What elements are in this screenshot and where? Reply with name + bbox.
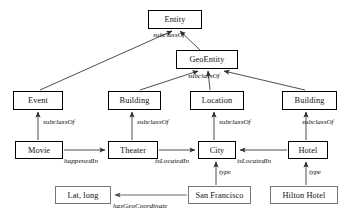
node-building-left-label: Building	[120, 96, 150, 105]
node-sanfrancisco-label: San Francisco	[195, 191, 243, 200]
edge-label-movie-event: subclassOf	[43, 118, 75, 126]
node-sanfrancisco[interactable]: San Francisco	[188, 186, 251, 204]
node-entity[interactable]: Entity	[148, 10, 202, 29]
edge-building-right-geoentity	[224, 71, 305, 90]
edge-label-city-location: subclassOf	[219, 118, 251, 126]
edge-label-sanfrancisco-city: type	[219, 168, 231, 176]
node-location[interactable]: Location	[190, 91, 244, 110]
node-hiltonhotel[interactable]: Hilton Hotel	[270, 186, 338, 204]
edge-label-sanfrancisco-latlong: hasGeoCoordinate	[113, 202, 168, 210]
node-building-left[interactable]: Building	[108, 91, 161, 110]
node-movie-label: Movie	[28, 146, 50, 155]
edge-label-hotel-building: subclassOf	[302, 118, 334, 126]
node-latlong[interactable]: Lat, long	[55, 186, 111, 204]
node-event-label: Event	[28, 96, 48, 105]
edge-label-location-geoentity: subclassOf	[188, 72, 220, 80]
node-city[interactable]: City	[198, 141, 236, 159]
node-geoentity-label: GeoEntity	[189, 55, 224, 64]
node-city-label: City	[210, 146, 225, 155]
diagram-canvas: Entity GeoEntity Event Building Location…	[0, 0, 359, 215]
edge-label-theater-building: subclassOf	[137, 118, 169, 126]
node-hiltonhotel-label: Hilton Hotel	[283, 191, 326, 200]
node-entity-label: Entity	[165, 15, 186, 24]
edge-label-geoentity-entity: subclassOf	[153, 31, 185, 39]
edge-label-movie-theater: happenedIn	[64, 157, 98, 165]
edge-label-hiltonhotel-hotel: type	[309, 168, 321, 176]
node-location-label: Location	[202, 96, 232, 105]
node-theater[interactable]: Theater	[108, 141, 158, 159]
edge-event-entity	[40, 31, 172, 90]
edge-label-theater-city: isLocatedIn	[155, 157, 189, 165]
node-hotel[interactable]: Hotel	[288, 141, 328, 159]
node-event[interactable]: Event	[13, 91, 63, 110]
edge-label-hotel-city: isLocatedIn	[237, 157, 271, 165]
node-geoentity[interactable]: GeoEntity	[176, 50, 238, 69]
node-movie[interactable]: Movie	[15, 141, 63, 159]
node-theater-label: Theater	[120, 146, 146, 155]
node-building-right-label: Building	[295, 96, 325, 105]
node-building-right[interactable]: Building	[282, 91, 337, 110]
node-hotel-label: Hotel	[299, 146, 318, 155]
node-latlong-label: Lat, long	[68, 191, 99, 200]
